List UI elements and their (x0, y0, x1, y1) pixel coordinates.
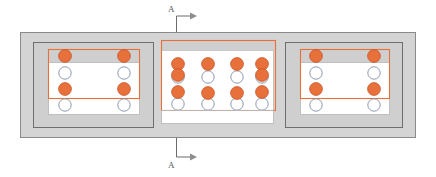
center-filled-bar (202, 58, 215, 71)
center-filled-bar (172, 86, 185, 99)
center-filled-bar (172, 69, 185, 82)
center-open-circle (202, 71, 214, 83)
left-open-circle (59, 99, 71, 111)
center-open-circle (256, 98, 268, 110)
right-filled-bar (368, 83, 381, 96)
left-open-circle (118, 99, 130, 111)
right-open-circle (310, 99, 322, 111)
right-open-circle (310, 67, 322, 79)
center-footing-group (162, 41, 276, 124)
center-open-circle (231, 71, 243, 83)
section-label-bottom: A (168, 160, 175, 170)
center-bottom-white (162, 111, 274, 124)
right-open-circle (368, 99, 380, 111)
diagram-canvas: A A (0, 0, 436, 177)
center-filled-bar (256, 69, 269, 82)
center-filled-bar (202, 87, 215, 100)
left-footing-group (34, 43, 154, 128)
right-filled-bar (310, 83, 323, 96)
left-filled-bar (118, 50, 131, 63)
right-filled-bar (368, 50, 381, 63)
left-filled-bar (59, 83, 72, 96)
center-top-band (162, 41, 276, 51)
left-open-circle (59, 67, 71, 79)
left-filled-bar (59, 50, 72, 63)
left-open-circle (118, 67, 130, 79)
right-footing-group (286, 43, 403, 128)
center-open-circle (172, 98, 184, 110)
section-label-top: A (168, 4, 175, 14)
structural-plan-drawing (0, 0, 436, 177)
left-filled-bar (118, 83, 131, 96)
center-filled-bar (231, 87, 244, 100)
section-marker-bottom (177, 138, 198, 161)
center-filled-bar (256, 86, 269, 99)
right-filled-bar (310, 50, 323, 63)
section-marker-top (177, 13, 198, 33)
center-filled-bar (231, 58, 244, 71)
right-open-circle (368, 67, 380, 79)
